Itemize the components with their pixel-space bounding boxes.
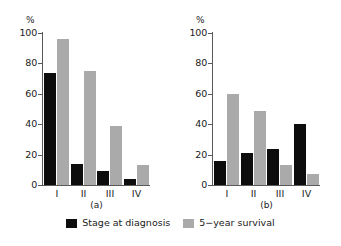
x-tick-label: III [267,189,293,199]
y-tick-label: 80 [1,59,37,69]
x-tick-label: II [241,189,267,199]
bar-five-year-survival [57,39,69,185]
y-tick-label: 40 [1,119,37,129]
chart-legend: Stage at diagnosis 5−year survival [0,218,341,228]
y-tick-label: 20 [171,150,207,160]
y-tick-label: 100 [1,28,37,38]
bar-group [214,33,240,185]
bar-five-year-survival [110,126,122,185]
panel-container: % 020406080100 IIIIIIIV (a) % 0204060801… [0,0,341,212]
bar-group [294,33,320,185]
figure: % 020406080100 IIIIIIIV (a) % 0204060801… [0,0,341,246]
bar-five-year-survival [307,174,319,185]
legend-item-five-year-survival: 5−year survival [183,218,274,228]
x-tick-label: II [71,189,97,199]
y-tick-label: 20 [1,150,37,160]
y-tick-mark [38,185,43,186]
legend-swatch-icon-dark [66,219,77,228]
panel-caption-b: (b) [213,200,320,210]
bar-five-year-survival [137,165,149,185]
y-tick-mark [208,185,213,186]
legend-item-stage-at-diagnosis: Stage at diagnosis [66,218,170,228]
legend-label-five-year-survival: 5−year survival [199,218,274,228]
bar-stage-at-diagnosis [294,124,306,185]
y-axis-unit-label-b: % [196,16,205,25]
bar-five-year-survival [227,94,239,185]
x-tick-label: III [97,189,123,199]
y-tick-label: 0 [171,180,207,190]
y-tick-label: 80 [171,59,207,69]
bar-group [267,33,293,185]
bar-stage-at-diagnosis [241,153,253,185]
bar-groups-a [43,33,150,185]
x-axis-line-a [42,185,150,186]
bar-group [241,33,267,185]
panel-caption-a: (a) [43,200,150,210]
bar-group [97,33,123,185]
x-axis-line-b [212,185,320,186]
legend-swatch-icon-light [183,219,194,228]
chart-panel-b: % 020406080100 IIIIIIIV (b) [170,0,340,212]
bar-five-year-survival [84,71,96,185]
bar-five-year-survival [254,111,266,185]
bar-group [44,33,70,185]
y-tick-label: 40 [171,119,207,129]
x-tick-label: I [214,189,240,199]
bar-group [124,33,150,185]
legend-label-stage-at-diagnosis: Stage at diagnosis [82,218,170,228]
x-tick-label: IV [124,189,150,199]
bar-stage-at-diagnosis [214,161,226,185]
bar-five-year-survival [280,165,292,185]
bar-groups-b [213,33,320,185]
bar-stage-at-diagnosis [71,164,83,185]
y-tick-label: 60 [171,89,207,99]
x-tick-label: IV [294,189,320,199]
bar-stage-at-diagnosis [124,179,136,185]
chart-panel-a: % 020406080100 IIIIIIIV (a) [0,0,170,212]
bar-group [71,33,97,185]
y-tick-label: 60 [1,89,37,99]
y-tick-label: 100 [171,28,207,38]
bar-stage-at-diagnosis [44,73,56,185]
y-tick-label: 0 [1,180,37,190]
bar-stage-at-diagnosis [267,149,279,185]
y-axis-unit-label-a: % [26,16,35,25]
bar-stage-at-diagnosis [97,171,109,185]
x-tick-label: I [44,189,70,199]
